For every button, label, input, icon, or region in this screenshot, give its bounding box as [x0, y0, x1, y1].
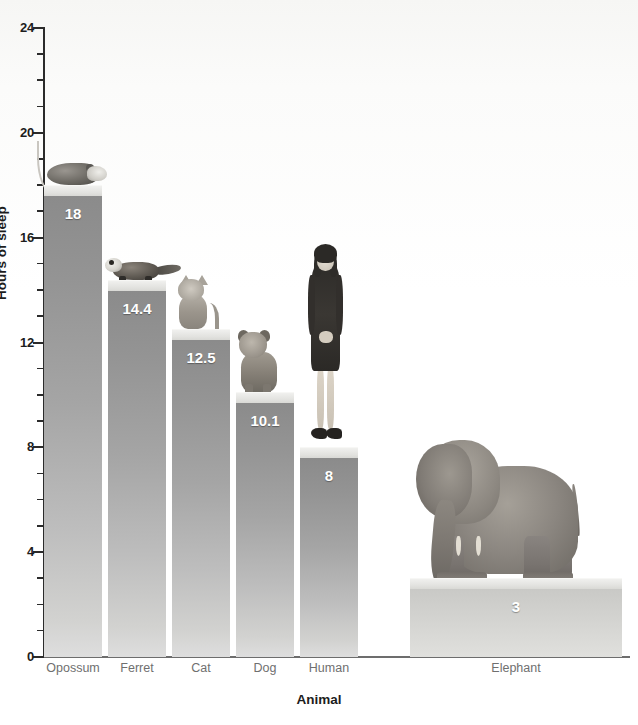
bar-value-label: 12.5 — [172, 349, 230, 366]
dog-body — [241, 352, 277, 392]
human-hair — [330, 255, 337, 277]
y-tick-minor — [37, 630, 44, 632]
cat-ear — [196, 275, 208, 285]
y-tick-label: 12 — [0, 335, 34, 350]
opossum-ear — [86, 164, 94, 172]
human-head — [317, 251, 334, 271]
human-image — [295, 247, 365, 447]
category-label-human: Human — [300, 661, 358, 675]
bar-human[interactable]: 8 — [300, 447, 358, 657]
y-tick-minor — [37, 53, 44, 55]
bar-value-label: 3 — [410, 598, 622, 615]
dog-ear — [238, 330, 249, 342]
opossum-body — [47, 163, 99, 185]
bar-elephant[interactable]: 3 — [410, 578, 622, 657]
dog-head — [239, 332, 267, 358]
human-leg — [327, 367, 334, 429]
bar-face — [108, 291, 166, 657]
y-tick-major — [33, 27, 44, 29]
bar-face — [44, 196, 102, 657]
y-tick-label: 20 — [0, 125, 34, 140]
y-tick-minor — [37, 210, 44, 212]
y-tick-label: 8 — [0, 439, 34, 454]
y-tick-minor — [37, 79, 44, 81]
dog-image — [231, 330, 301, 392]
bar-ferret[interactable]: 14.4 — [108, 280, 166, 657]
y-tick-minor — [37, 420, 44, 422]
bar-face — [300, 458, 358, 657]
sleep-hours-bar-chart: 04812162024 Hours of sleep Animal 18 14.… — [0, 0, 638, 725]
human-shoe — [326, 428, 342, 439]
x-axis-title: Animal — [0, 692, 638, 707]
opossum-head — [87, 166, 107, 181]
y-tick-minor — [37, 368, 44, 370]
y-tick-major — [33, 237, 44, 239]
ferret-image — [103, 218, 173, 280]
human-leg — [317, 367, 324, 429]
y-tick-minor — [37, 106, 44, 108]
cat-ear — [180, 275, 192, 285]
y-tick-minor — [37, 577, 44, 579]
dog-ear — [259, 330, 270, 342]
elephant-leg — [460, 536, 486, 582]
y-tick-minor — [37, 158, 44, 160]
bar-dog[interactable]: 10.1 — [236, 392, 294, 657]
bar-value-label: 10.1 — [236, 412, 294, 429]
y-tick-major — [33, 342, 44, 344]
y-tick-minor — [37, 604, 44, 606]
y-tick-major — [33, 551, 44, 553]
ferret-head — [105, 258, 122, 272]
bar-value-label: 18 — [44, 205, 102, 222]
bar-opossum[interactable]: 18 — [44, 185, 102, 657]
human-dress — [311, 267, 340, 371]
y-tick-major — [33, 446, 44, 448]
category-label-cat: Cat — [172, 661, 230, 675]
cat-image — [167, 267, 237, 329]
y-tick-label: 24 — [0, 20, 34, 35]
bar-cat[interactable]: 12.5 — [172, 329, 230, 657]
elephant-image — [416, 408, 616, 578]
elephant-tusk — [456, 536, 461, 556]
y-tick-label: 4 — [0, 544, 34, 559]
ferret-body — [113, 262, 159, 280]
category-label-opossum: Opossum — [44, 661, 102, 675]
elephant-body — [450, 466, 578, 574]
elephant-leg — [524, 536, 550, 582]
elephant-ear — [416, 444, 472, 518]
bar-value-label: 8 — [300, 467, 358, 484]
y-tick-major — [33, 656, 44, 658]
human-shoe — [311, 428, 327, 439]
human-hair — [314, 244, 337, 263]
elephant-trunk — [428, 500, 457, 586]
opossum-image — [39, 123, 109, 185]
elephant-leg — [438, 536, 464, 582]
elephant-tusk — [476, 536, 481, 556]
y-tick-minor — [37, 499, 44, 501]
y-tick-minor — [37, 184, 44, 186]
category-label-dog: Dog — [236, 661, 294, 675]
y-tick-minor — [37, 289, 44, 291]
y-tick-minor — [37, 394, 44, 396]
bar-face — [172, 340, 230, 657]
y-tick-minor — [37, 315, 44, 317]
human-arm — [336, 275, 343, 335]
cat-body — [179, 295, 207, 329]
elephant-leg — [546, 536, 572, 582]
cat-head — [178, 279, 204, 301]
y-tick-minor — [37, 263, 44, 265]
ferret-tail — [155, 263, 182, 276]
human-arm — [308, 275, 315, 335]
category-label-elephant: Elephant — [410, 661, 622, 675]
y-tick-minor — [37, 525, 44, 527]
y-tick-major — [33, 132, 44, 134]
elephant-tail — [571, 484, 580, 536]
elephant-head — [422, 440, 500, 524]
human-hair — [314, 255, 321, 277]
category-label-ferret: Ferret — [108, 661, 166, 675]
ferret-eye — [109, 260, 114, 265]
bar-value-label: 14.4 — [108, 300, 166, 317]
human-hands — [319, 331, 333, 343]
cat-tail — [203, 303, 219, 329]
y-tick-minor — [37, 473, 44, 475]
y-axis-title: Hours of sleep — [0, 206, 9, 300]
